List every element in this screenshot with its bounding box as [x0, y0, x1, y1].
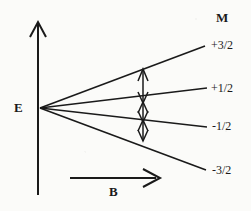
- energy-axis-label: E: [14, 101, 23, 114]
- level-label-plus-three-halves: +3/2: [211, 39, 233, 51]
- zeeman-splitting-diagram: M E B +3/2 +1/2 -1/2 -3/2: [0, 0, 251, 211]
- level-label-plus-one-half: +1/2: [211, 82, 233, 94]
- transition-arrows: [138, 69, 148, 141]
- transition-arrow-upper: [138, 69, 148, 103]
- transition-arrow-lower: [138, 120, 148, 141]
- level-label-minus-one-half: -1/2: [212, 120, 231, 132]
- column-header-m: M: [216, 11, 228, 24]
- level-label-minus-three-halves: -3/2: [212, 164, 231, 176]
- splitting-lines: [40, 46, 207, 170]
- diagram-canvas: [0, 0, 251, 211]
- magnetic-field-label: B: [109, 185, 118, 198]
